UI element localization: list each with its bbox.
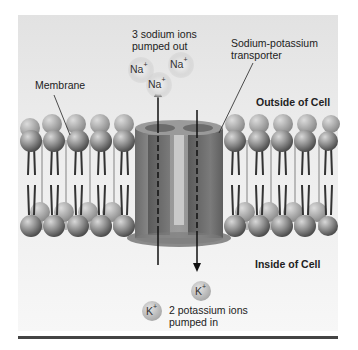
sodium-out-label: 3 sodium ionspumped out: [132, 28, 197, 52]
membrane-label: Membrane: [35, 79, 85, 91]
potassium-ion-2-label: K+: [146, 305, 157, 317]
outside-of-cell-label: Outside of Cell: [256, 96, 330, 108]
bottom-rule: [18, 336, 338, 339]
sodium-ion-2-label: Na+: [170, 58, 188, 70]
sodium-potassium-transporter: [127, 120, 231, 247]
transporter-label: Sodium-potassiumtransporter: [231, 37, 318, 61]
sodium-ion-3-label: Na+: [148, 78, 166, 90]
potassium-in-label: 2 potassium ionspumped in: [169, 304, 248, 328]
inside-of-cell-label: Inside of Cell: [255, 258, 320, 270]
potassium-ion-1-label: K+: [195, 285, 206, 297]
sodium-ion-1-label: Na+: [130, 63, 148, 75]
